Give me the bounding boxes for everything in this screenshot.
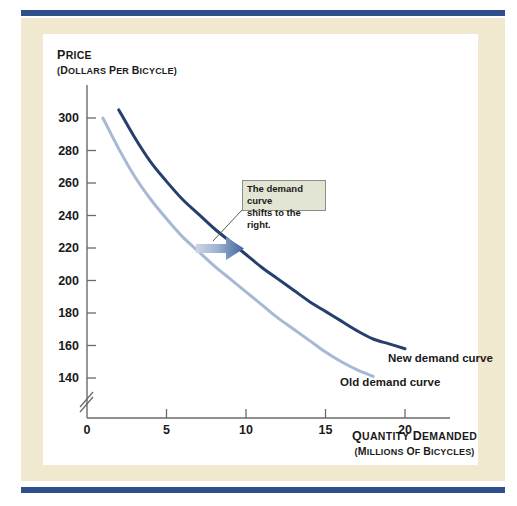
demand-curves xyxy=(103,110,405,377)
y-tick-label: 300 xyxy=(39,111,79,125)
y-tick-label: 200 xyxy=(39,274,79,288)
callout-text: The demand curve shifts to the right. xyxy=(247,183,325,232)
figure-root: PRICE (DOLLARS PER BICYCLE) QUANTITY DEM… xyxy=(0,0,517,506)
old-demand-curve-label: Old demand curve xyxy=(340,376,440,388)
x-tick-label: 10 xyxy=(239,423,253,437)
x-tick-label: 0 xyxy=(84,423,91,437)
x-axis-ticks xyxy=(167,409,406,418)
new-demand-curve-label: New demand curve xyxy=(388,352,493,364)
x-tick-label: 20 xyxy=(398,423,412,437)
y-tick-label: 160 xyxy=(39,339,79,353)
y-axis-ticks xyxy=(87,118,96,378)
y-tick-label: 260 xyxy=(39,176,79,190)
axis-lines xyxy=(87,85,450,418)
y-tick-label: 240 xyxy=(39,209,79,223)
callout-line-2: shifts to the right. xyxy=(247,207,325,231)
y-tick-label: 140 xyxy=(39,371,79,385)
y-tick-label: 280 xyxy=(39,144,79,158)
x-tick-label: 15 xyxy=(319,423,333,437)
callout-line-1: The demand curve xyxy=(247,183,325,207)
y-tick-label: 220 xyxy=(39,241,79,255)
x-tick-label: 5 xyxy=(163,423,170,437)
callout-leader-line xyxy=(213,210,242,241)
y-tick-label: 180 xyxy=(39,306,79,320)
